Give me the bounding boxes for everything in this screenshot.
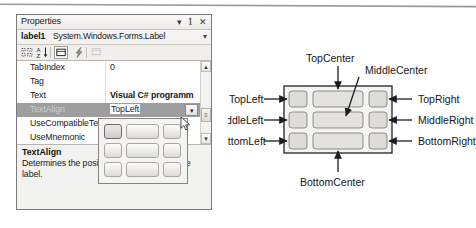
- diagram-label-middleleft: MiddleLeft: [228, 114, 264, 126]
- scroll-down-icon[interactable]: ▼: [201, 133, 211, 144]
- properties-toolbar: A Z: [17, 45, 211, 61]
- chevron-down-icon[interactable]: ▾: [203, 32, 207, 41]
- window-menu-dropdown-icon[interactable]: ▾: [174, 16, 185, 28]
- scan-artifact-line: [0, 3, 476, 8]
- property-pages-icon: [90, 46, 104, 59]
- diagram-cell-bottomleft: [289, 133, 307, 149]
- scrollbar-thumb[interactable]: ≡: [201, 108, 211, 122]
- diagram-cell-middleleft: [289, 112, 307, 128]
- object-selector-bar[interactable]: label1 System.Windows.Forms.Label ▾: [17, 30, 211, 45]
- diagram-label-bottomcenter: BottomCenter: [300, 176, 365, 188]
- properties-title: Properties: [21, 16, 61, 26]
- diagram-cell-topcenter: [313, 91, 363, 107]
- align-cell-middleleft[interactable]: [104, 143, 122, 158]
- diagram-label-bottomright: BottomRight: [418, 135, 476, 147]
- align-cell-middleright[interactable]: [163, 143, 181, 158]
- diagram-label-topright: TopRight: [418, 93, 460, 105]
- alphabetical-sort-icon[interactable]: A Z: [36, 46, 50, 59]
- align-cell-bottomleft[interactable]: [104, 162, 122, 177]
- object-name: label1: [21, 31, 45, 41]
- property-name: Tag: [30, 76, 44, 86]
- property-name: Text: [30, 90, 46, 100]
- property-row-tag[interactable]: Tag: [17, 75, 211, 89]
- scroll-up-icon[interactable]: ▲: [201, 61, 211, 72]
- diagram-label-topcenter: TopCenter: [306, 52, 355, 64]
- align-cell-topright[interactable]: [163, 124, 181, 139]
- property-row-textalign[interactable]: TextAlign TopLeft ▾: [17, 103, 211, 117]
- pin-icon[interactable]: ⥠: [185, 16, 196, 28]
- property-name: TabIndex: [30, 62, 65, 72]
- property-row-tabindex[interactable]: TabIndex 0: [17, 61, 211, 75]
- object-type: System.Windows.Forms.Label: [53, 31, 165, 41]
- diagram-cell-topright: [369, 91, 387, 107]
- svg-text:Z: Z: [37, 53, 41, 59]
- align-cell-bottomright[interactable]: [163, 162, 181, 177]
- diagram-cell-topleft: [289, 91, 307, 107]
- diagram-label-bottomleft: BottomLeft: [228, 135, 266, 147]
- diagram-cells: [289, 91, 387, 149]
- property-grid-scrollbar[interactable]: ▲ ≡ ▼: [200, 61, 211, 144]
- diagram-cell-bottomcenter: [313, 133, 363, 149]
- diagram-label-middleright: MiddleRight: [418, 114, 474, 126]
- diagram-cell-bottomright: [369, 133, 387, 149]
- alignment-diagram: TopCenter MiddleCenter TopLeft MiddleLef…: [228, 40, 476, 190]
- property-row-text[interactable]: Text Visual C# programm: [17, 89, 211, 103]
- align-cell-bottomcenter[interactable]: [126, 162, 159, 177]
- close-icon[interactable]: ✕: [197, 16, 208, 28]
- diagram-label-middlecenter: MiddleCenter: [365, 64, 428, 76]
- diagram-cell-middlecenter: [313, 112, 363, 128]
- textalign-dropdown-popup[interactable]: [98, 118, 188, 184]
- align-cell-middlecenter[interactable]: [126, 143, 159, 158]
- properties-view-icon[interactable]: [54, 46, 68, 59]
- property-value[interactable]: TopLeft: [110, 104, 140, 114]
- textalign-dropdown-button[interactable]: ▾: [185, 104, 198, 116]
- property-name: UseCompatibleText: [30, 118, 105, 128]
- property-value[interactable]: 0: [110, 62, 115, 72]
- property-name: UseMnemonic: [30, 132, 85, 142]
- events-view-icon[interactable]: [72, 46, 86, 59]
- categorized-view-icon[interactable]: [20, 46, 34, 59]
- mouse-cursor-icon: [180, 116, 192, 136]
- diagram-cell-middleright: [369, 112, 387, 128]
- property-value[interactable]: Visual C# programm: [110, 90, 194, 100]
- align-cell-topcenter[interactable]: [126, 124, 159, 139]
- property-name: TextAlign: [30, 104, 65, 114]
- toolbar-separator-1: [50, 47, 51, 58]
- properties-titlebar: Properties ▾ ⥠ ✕: [17, 15, 211, 30]
- diagram-label-topleft: TopLeft: [229, 93, 264, 105]
- toolbar-separator-2: [86, 47, 87, 58]
- align-cell-topleft[interactable]: [104, 124, 122, 139]
